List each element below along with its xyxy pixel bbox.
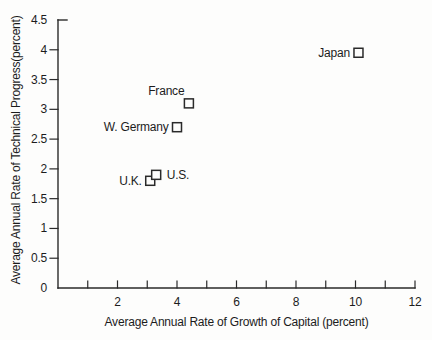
y-tick-label: 0	[41, 281, 48, 295]
point-label-japan: Japan	[318, 46, 350, 60]
data-point-france	[184, 99, 193, 108]
y-tick-label: 1.5	[31, 192, 48, 206]
y-axis-label: Average Annual Rate of Technical Progres…	[9, 0, 25, 310]
x-tick-label: 4	[174, 295, 181, 309]
point-label-u-k: U.K.	[119, 174, 142, 188]
y-tick-label: 3	[41, 102, 48, 116]
x-tick-label: 8	[293, 295, 300, 309]
point-label-u-s: U.S.	[167, 168, 190, 182]
point-label-france: France	[148, 84, 185, 98]
y-tick-label: 2.5	[31, 132, 48, 146]
data-point-w-germany	[173, 123, 182, 132]
data-point-japan	[354, 48, 363, 57]
y-tick-label: 2	[41, 162, 48, 176]
scatter-figure: 00.511.522.533.544.524681012JapanFranceW…	[0, 0, 432, 340]
y-tick-label: 1	[41, 221, 48, 235]
x-tick-label: 6	[233, 295, 240, 309]
data-point-u-s	[152, 170, 161, 179]
point-label-w-germany: W. Germany	[104, 120, 169, 134]
y-tick-label: 4	[41, 43, 48, 57]
x-axis-label: Average Annual Rate of Growth of Capital…	[58, 315, 415, 329]
plot-area: 00.511.522.533.544.524681012JapanFranceW…	[0, 0, 432, 340]
y-tick-label: 4.5	[31, 13, 48, 27]
x-tick-label: 12	[409, 295, 422, 309]
y-tick-label: 0.5	[31, 251, 48, 265]
x-tick-label: 2	[114, 295, 121, 309]
x-tick-label: 10	[349, 295, 362, 309]
y-tick-label: 3.5	[31, 73, 48, 87]
